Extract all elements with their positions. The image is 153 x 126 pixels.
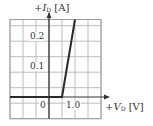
x-axis-subscript: D bbox=[121, 105, 126, 112]
x-axis-unit: [V] bbox=[129, 101, 144, 112]
grid bbox=[10, 20, 101, 119]
y-tick-0.1: 0.1 bbox=[29, 62, 45, 71]
x-axis-variable: V bbox=[113, 101, 120, 112]
axes bbox=[10, 12, 110, 119]
x-axis-arrow-icon bbox=[104, 95, 110, 100]
y-tick-0.2: 0.2 bbox=[29, 32, 45, 41]
x-tick-1.0: 1.0 bbox=[65, 101, 81, 110]
x-tick-0: 0 bbox=[39, 101, 47, 110]
y-axis-label: +ID [A] bbox=[34, 3, 69, 13]
plot-border bbox=[10, 20, 101, 119]
y-axis-subscript: D bbox=[46, 6, 51, 13]
y-axis-unit: [A] bbox=[54, 2, 69, 13]
x-axis-label: +VD [V] bbox=[105, 102, 144, 112]
